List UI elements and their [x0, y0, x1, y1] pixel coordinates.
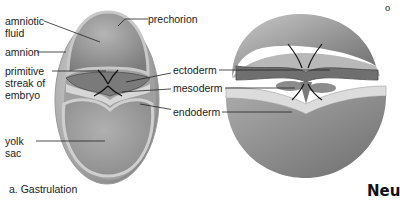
label-mesoderm: mesoderm: [171, 82, 225, 94]
label-primitive-streak-line1: primitive: [5, 65, 44, 77]
partial-text-top: o: [385, 2, 390, 14]
label-amnion: amnion: [5, 46, 39, 58]
label-endoderm: endoderm: [171, 106, 222, 118]
label-amniotic-fluid-line1: amniotic: [5, 15, 44, 27]
label-yolk-sac-line2: sac: [5, 147, 21, 159]
embryo-b-section: [226, 14, 386, 178]
label-yolk-sac-line1: yolk: [5, 135, 24, 147]
label-amniotic-fluid-line2: fluid: [5, 27, 24, 39]
partial-heading-neurulation: Neu: [367, 182, 400, 200]
embryo-a: [55, 12, 159, 184]
label-prechorion: prechorion: [148, 13, 198, 25]
label-primitive-streak-line2: streak of: [5, 77, 45, 89]
label-primitive-streak-line3: embryo: [5, 89, 40, 101]
label-ectoderm: ectoderm: [171, 64, 219, 76]
caption-gastrulation: a. Gastrulation: [9, 183, 77, 195]
